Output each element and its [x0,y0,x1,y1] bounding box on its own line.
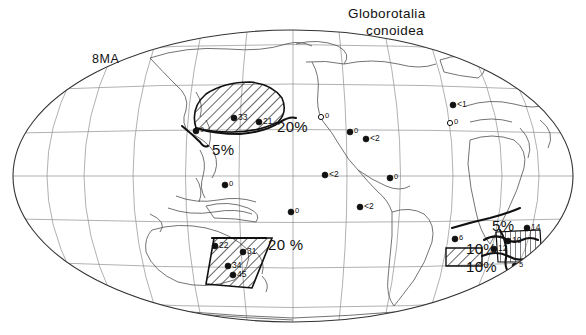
sample-point-value: <2 [370,133,380,143]
contour-label-satl-5: 5% [492,217,514,234]
world-map [0,0,586,335]
contour-label-satl-10b: 10% [466,258,497,275]
sample-point-value: 9 [200,125,204,134]
figure-panel: Globorotalia conoidea 8MA 3321900<2<10<2… [0,0,586,335]
sample-point-value: <2 [329,169,339,179]
sample-point-marker [212,243,218,249]
sample-point-marker [231,115,237,121]
map-interior [0,0,586,335]
sample-point-marker [452,236,458,242]
sample-point-marker [193,128,199,134]
sample-point-marker [225,263,231,269]
contour-label-np-20: 20% [277,118,308,135]
sample-point-marker [387,175,393,181]
sample-point-marker [357,204,363,210]
sample-point-value: 33 [238,112,247,122]
sample-point-value: 21 [263,116,272,126]
sample-point-value: 10 [512,235,521,245]
sample-point-value: 0 [354,126,358,135]
sample-point-value: 22 [219,240,228,250]
sample-point-value: 45 [237,269,246,279]
sample-point-marker [318,114,323,119]
sample-point-value: 6 [459,233,463,242]
sample-point-value: <2 [364,201,374,211]
sample-point-marker [450,102,456,108]
sample-point-value: 12 [498,243,507,253]
sample-point-value: <1 [457,99,467,109]
sample-point-value: 14 [531,222,540,232]
sample-point-value: 0 [454,117,458,126]
sample-point-marker [230,272,236,278]
sample-point-marker [256,119,262,125]
sample-point-marker [447,120,452,125]
sample-point-marker [363,136,369,142]
contour-label-satl-10a: 10% [466,240,497,257]
sample-point-value: 0 [394,172,398,181]
sample-point-marker [347,129,353,135]
contour-label-tasman-20: 20 % [268,236,303,253]
sample-point-value: 31 [247,246,256,256]
sample-point-marker [222,182,228,188]
taxon-name-line1: Globorotalia [348,6,426,21]
age-label: 8MA [92,52,120,66]
sample-point-value: 0 [325,111,329,120]
sample-point-marker [322,172,328,178]
sample-point-marker [524,225,530,231]
sample-point-value: 5 [519,260,523,269]
sample-point-marker [240,249,246,255]
contour-label-np-5: 5% [212,141,234,158]
taxon-name-line2: conoidea [366,23,424,38]
sample-point-value: 0 [229,179,233,188]
sample-point-value: 0 [295,206,299,215]
sample-point-marker [288,209,294,215]
